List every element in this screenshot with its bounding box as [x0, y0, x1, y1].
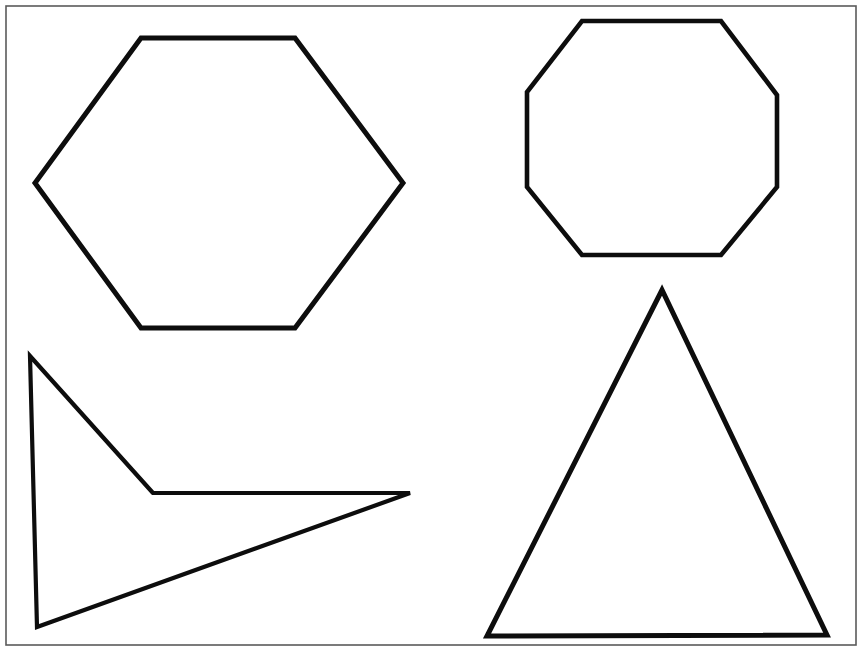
triangle-shape [487, 290, 827, 636]
shapes-page [0, 0, 864, 657]
hexagon-shape [35, 38, 403, 328]
shapes-canvas [0, 0, 864, 657]
arrow-shape [30, 356, 410, 627]
page-border-frame [6, 6, 856, 645]
octagon-shape [527, 21, 777, 255]
